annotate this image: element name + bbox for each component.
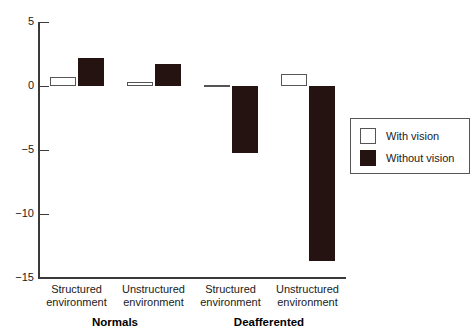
bar-with-vision — [204, 85, 230, 87]
chart-legend: With vision Without vision — [350, 118, 470, 174]
y-axis-tick-label: 5 — [0, 16, 34, 27]
y-axis-tick-label-wrap: −10 — [0, 208, 34, 219]
legend-item-without-vision: Without vision — [360, 149, 454, 167]
category-label-line1: Unstructured — [261, 283, 354, 296]
legend-swatch-open-icon — [360, 128, 376, 144]
bar-without-vision — [78, 58, 104, 86]
bar-with-vision — [281, 74, 307, 86]
legend-label: With vision — [386, 131, 439, 142]
bar-chart: 50−5−10−15 StructuredenvironmentUnstruct… — [0, 0, 476, 334]
x-axis-group-label: Normals — [38, 316, 192, 329]
y-axis-tick-label-wrap: 5 — [0, 16, 34, 27]
y-axis-tick — [40, 150, 49, 151]
y-axis-tick — [40, 22, 49, 23]
y-axis-tick — [40, 278, 49, 279]
y-axis-tick-label-wrap: −15 — [0, 272, 34, 283]
category-label-line2: environment — [261, 296, 354, 309]
y-axis-tick-label: 0 — [0, 80, 34, 91]
y-axis-tick-label-wrap: −5 — [0, 144, 34, 155]
y-axis-tick — [40, 214, 49, 215]
x-axis-line — [38, 277, 346, 279]
x-axis-category-label: Unstructuredenvironment — [261, 283, 354, 309]
y-axis-tick-label-wrap: 0 — [0, 80, 34, 91]
y-axis-tick-label: −5 — [0, 144, 34, 155]
bar-without-vision — [155, 64, 181, 86]
y-axis-tick-label: −15 — [0, 272, 34, 283]
bar-without-vision — [232, 86, 258, 153]
x-axis-group-label: Deafferented — [192, 316, 346, 329]
bar-without-vision — [309, 86, 335, 261]
y-axis-tick-label: −10 — [0, 208, 34, 219]
bar-with-vision — [50, 77, 76, 86]
bar-with-vision — [127, 82, 153, 86]
legend-swatch-filled-icon — [360, 150, 376, 166]
legend-item-with-vision: With vision — [360, 127, 439, 145]
y-axis-tick — [40, 86, 49, 87]
legend-label: Without vision — [386, 153, 454, 164]
